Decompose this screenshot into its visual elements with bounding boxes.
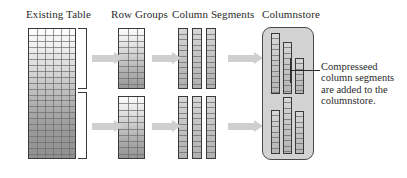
row-group-row-line — [119, 103, 144, 104]
segment-cell — [284, 152, 291, 154]
row-group-column-line — [137, 29, 138, 88]
row-group-column-line — [128, 29, 129, 88]
table-grid-row-line — [29, 71, 75, 72]
flow-arrow — [92, 120, 123, 133]
table-grid-column-line — [37, 29, 38, 158]
table-grid-row-line — [29, 89, 75, 90]
arrow-head — [114, 52, 123, 64]
callout-text: Compresseedcolumn segmentsare added to t… — [321, 61, 407, 107]
flow-arrow — [228, 120, 263, 133]
row-group-row-line — [119, 154, 144, 155]
column-segment — [206, 28, 216, 89]
row-group-row-line — [119, 135, 144, 136]
table-grid-row-line — [29, 83, 75, 84]
bracket-lower-row-group — [78, 92, 87, 159]
segment-cell — [296, 91, 303, 94]
table-grid-row-line — [29, 124, 75, 125]
segment-cell — [272, 93, 279, 94]
row-group-row-line — [119, 84, 144, 85]
segment-cell — [284, 92, 291, 94]
arrow-shaft — [228, 55, 254, 62]
table-grid-column-line — [53, 29, 54, 158]
label-columnstore: Columnstore — [262, 8, 320, 20]
table-grid-row-line — [29, 136, 75, 137]
table-grid-row-line — [29, 154, 75, 155]
row-group-row-line — [119, 47, 144, 48]
flow-arrow — [152, 52, 181, 65]
table-grid-row-line — [29, 112, 75, 113]
row-group-row-line — [119, 78, 144, 79]
columnstore-segment — [271, 110, 280, 154]
row-group-row-line — [119, 141, 144, 142]
existing-table-grid — [28, 28, 76, 159]
column-segment — [192, 96, 202, 159]
table-grid-column-line — [69, 29, 70, 158]
columnstore-segment — [295, 111, 304, 154]
arrow-shaft — [92, 55, 114, 62]
callout-line: columnstore. — [321, 95, 407, 106]
table-grid-row-line — [29, 100, 75, 101]
bracket-upper-row-group — [78, 28, 87, 89]
table-grid-row-line — [29, 118, 75, 119]
row-group-row-line — [119, 147, 144, 148]
callout-leader-horizontal — [290, 70, 320, 71]
segment-cell — [296, 150, 303, 154]
diagram-canvas: Existing Table Row Groups Column Segment… — [0, 0, 407, 178]
arrow-shaft — [228, 123, 254, 130]
table-grid-row-line — [29, 106, 75, 107]
callout-line: column segments — [321, 72, 407, 83]
table-grid-row-line — [29, 148, 75, 149]
callout-line: are added to the — [321, 84, 407, 95]
table-grid-row-line — [29, 53, 75, 54]
table-grid-row-line — [29, 130, 75, 131]
row-group-column-line — [137, 97, 138, 158]
table-grid-row-line — [29, 65, 75, 66]
flow-arrow — [92, 52, 123, 65]
columnstore-segment — [271, 33, 280, 94]
row-group-row-line — [119, 41, 144, 42]
flow-arrow — [152, 120, 181, 133]
label-column-segments: Column Segments — [172, 8, 254, 20]
flow-arrow — [228, 52, 263, 65]
row-group-row-line — [119, 35, 144, 36]
arrow-shaft — [152, 55, 172, 62]
table-grid-row-line — [29, 95, 75, 96]
arrow-shaft — [92, 123, 114, 130]
table-grid-row-line — [29, 47, 75, 48]
arrow-head — [172, 120, 181, 132]
table-grid-row-line — [29, 35, 75, 36]
segment-cell — [179, 85, 187, 89]
columnstore-segment — [295, 58, 304, 94]
arrow-shaft — [152, 123, 172, 130]
column-segment — [192, 28, 202, 89]
table-grid-row-line — [29, 142, 75, 143]
row-group-row-line — [119, 72, 144, 73]
row-group-row-line — [119, 116, 144, 117]
label-row-groups: Row Groups — [111, 8, 168, 20]
columnstore-segment — [283, 97, 292, 154]
table-grid-row-line — [29, 41, 75, 42]
label-existing-table: Existing Table — [26, 8, 91, 20]
column-segment — [206, 96, 216, 159]
arrow-head — [172, 52, 181, 64]
row-group-row-line — [119, 66, 144, 67]
callout-line: Compresseed — [321, 61, 407, 72]
table-grid-row-line — [29, 77, 75, 78]
segment-cell — [272, 149, 279, 154]
table-grid-column-line — [45, 29, 46, 158]
segment-cell — [193, 85, 201, 89]
table-grid-row-line — [29, 59, 75, 60]
table-grid-column-line — [61, 29, 62, 158]
row-group-row-line — [119, 110, 144, 111]
arrow-head — [114, 120, 123, 132]
segment-cell — [207, 85, 215, 89]
row-group-column-line — [128, 97, 129, 158]
